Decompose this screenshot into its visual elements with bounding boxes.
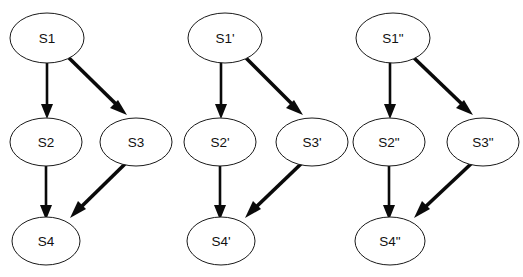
edge-s2p-s4p	[214, 166, 226, 220]
edge-s3-s4	[70, 162, 127, 218]
node-label: S2	[38, 135, 55, 150]
state-transition-diagram: S1 S2 S3 S4	[0, 0, 523, 277]
edge-s1p-s2p	[215, 62, 227, 119]
graph-group-unprimed: S1 S2 S3 S4	[10, 13, 172, 265]
edge-s2pp-s4pp	[383, 166, 395, 220]
node-s3[interactable]: S3	[100, 118, 172, 166]
node-label: S1"	[382, 31, 404, 46]
node-s3-prime[interactable]: S3'	[276, 118, 348, 166]
edge-s1pp-s2pp	[384, 62, 396, 119]
node-s4-double-prime[interactable]: S4"	[355, 217, 425, 265]
node-s1-double-prime[interactable]: S1"	[356, 13, 430, 63]
edge-s2-s4	[40, 166, 52, 220]
node-label: S3"	[472, 135, 494, 150]
graph-group-double-prime: S1" S2" S3" S4"	[353, 13, 519, 265]
node-label: S4'	[211, 234, 230, 249]
node-label: S3	[128, 135, 145, 150]
node-label: S3'	[302, 135, 321, 150]
node-label: S1'	[215, 31, 234, 46]
node-s3-double-prime[interactable]: S3"	[447, 118, 519, 166]
graph-group-single-prime: S1' S2' S3' S4'	[184, 13, 348, 265]
edge-s3pp-s4pp	[414, 162, 473, 218]
node-label: S2'	[210, 135, 229, 150]
node-s2-double-prime[interactable]: S2"	[353, 118, 425, 166]
edge-s1p-s3p	[245, 57, 303, 115]
edge-s1-s3	[68, 57, 127, 115]
arrowhead-icon	[215, 104, 227, 119]
arrowhead-icon	[384, 104, 396, 119]
edge-s1pp-s3pp	[413, 57, 473, 115]
node-s2[interactable]: S2	[10, 118, 82, 166]
node-s1-prime[interactable]: S1'	[188, 13, 262, 63]
node-s2-prime[interactable]: S2'	[184, 118, 256, 166]
node-label: S2"	[378, 135, 400, 150]
node-label: S4	[38, 234, 55, 249]
edge-s1-s2	[41, 62, 53, 119]
edge-s3p-s4p	[245, 162, 303, 218]
node-label: S4"	[379, 234, 401, 249]
node-s4[interactable]: S4	[12, 217, 80, 265]
node-s4-prime[interactable]: S4'	[187, 217, 255, 265]
arrowhead-icon	[41, 104, 53, 119]
diagram-canvas: S1 S2 S3 S4	[0, 0, 523, 277]
node-s1[interactable]: S1	[10, 13, 84, 63]
node-label: S1	[39, 31, 56, 46]
